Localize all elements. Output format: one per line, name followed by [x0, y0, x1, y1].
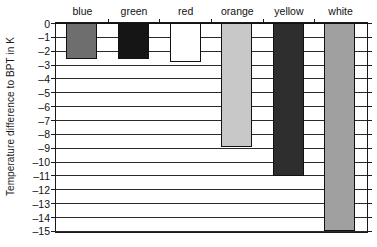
- y-axis-tick-mark-right: [368, 92, 372, 93]
- y-axis-tick-mark-left: [51, 51, 55, 52]
- y-axis-tick-mark-right: [368, 51, 372, 52]
- y-axis-tick-label: –15: [32, 226, 50, 236]
- bar-green: [118, 23, 149, 59]
- gridline: [56, 148, 367, 149]
- y-axis-tick-label: –2: [38, 46, 50, 56]
- gridline: [56, 231, 367, 232]
- y-axis-tick-mark-left: [51, 175, 55, 176]
- category-label-yellow: yellow: [263, 5, 315, 18]
- gridline: [56, 106, 367, 107]
- y-axis-tick-mark-right: [368, 189, 372, 190]
- y-axis-tick-mark-left: [51, 203, 55, 204]
- y-axis-tick-labels: 0–1–2–3–4–5–6–7–8–9–10–11–12–13–14–15: [18, 22, 53, 233]
- y-axis-tick-label: –8: [38, 129, 50, 139]
- y-axis-tick-mark-right: [368, 162, 372, 163]
- y-axis-tick-mark-left: [51, 231, 55, 232]
- x-axis-tick-mark: [159, 19, 160, 23]
- y-axis-tick-mark-left: [51, 78, 55, 79]
- gridline: [56, 189, 367, 190]
- y-axis-tick-label: –4: [38, 74, 50, 84]
- gridline: [56, 217, 367, 218]
- y-axis-tick-mark-right: [368, 65, 372, 66]
- y-axis-tick-label: –7: [38, 116, 50, 126]
- y-axis-tick-mark-right: [368, 148, 372, 149]
- y-axis-tick-label: –14: [32, 213, 50, 223]
- x-axis-tick-mark: [314, 19, 315, 23]
- y-axis-tick-label: –9: [38, 143, 50, 153]
- plot-area: [55, 22, 368, 233]
- gridline: [56, 37, 367, 38]
- y-axis-tick-mark-right: [368, 203, 372, 204]
- gridline: [56, 175, 367, 176]
- gridline: [56, 162, 367, 163]
- y-axis-tick-label: –1: [38, 32, 50, 42]
- category-label-red: red: [160, 5, 212, 18]
- y-axis-tick-mark-right: [368, 231, 372, 232]
- y-axis-tick-label: –6: [38, 102, 50, 112]
- x-axis-tick-mark: [108, 19, 109, 23]
- bar-orange: [221, 23, 252, 147]
- x-axis-tick-mark: [263, 19, 264, 23]
- y-axis-tick-label: –10: [32, 157, 50, 167]
- gridline: [56, 203, 367, 204]
- gridline: [56, 92, 367, 93]
- gridline: [56, 23, 367, 24]
- y-axis-tick-mark-right: [368, 175, 372, 176]
- y-axis-tick-mark-right: [368, 217, 372, 218]
- y-axis-tick-mark-right: [368, 78, 372, 79]
- y-axis-tick-mark-right: [368, 106, 372, 107]
- bar-red: [170, 23, 201, 62]
- category-label-green: green: [108, 5, 160, 18]
- y-axis-tick-mark-left: [51, 148, 55, 149]
- y-axis-tick-mark-left: [51, 120, 55, 121]
- y-axis-tick-mark-left: [51, 162, 55, 163]
- category-label-orange: orange: [212, 5, 264, 18]
- y-axis-tick-label: –5: [38, 88, 50, 98]
- y-axis-tick-label: 0: [44, 19, 50, 29]
- bar-yellow: [273, 23, 304, 176]
- y-axis-tick-mark-left: [51, 134, 55, 135]
- gridline: [56, 120, 367, 121]
- y-axis-tick-mark-right: [368, 37, 372, 38]
- y-axis-tick-mark-left: [51, 217, 55, 218]
- y-axis-title-text: Temperature difference to BPT in K: [6, 36, 17, 195]
- y-axis-tick-mark-left: [51, 92, 55, 93]
- y-axis-tick-label: –11: [33, 171, 50, 181]
- gridline: [56, 134, 367, 135]
- y-axis-tick-mark-right: [368, 120, 372, 121]
- gridline: [56, 78, 367, 79]
- gridline: [56, 51, 367, 52]
- y-axis-tick-mark-left: [51, 23, 55, 24]
- y-axis-tick-label: –13: [32, 199, 50, 209]
- plot-inner: [56, 23, 367, 232]
- y-axis-tick-mark-right: [368, 134, 372, 135]
- y-axis-tick-mark-left: [51, 189, 55, 190]
- bar-blue: [66, 23, 97, 59]
- gridline: [56, 65, 367, 66]
- y-axis-tick-mark-left: [51, 65, 55, 66]
- x-axis-tick-mark: [211, 19, 212, 23]
- y-axis-tick-label: –3: [38, 60, 50, 70]
- bar-white: [324, 23, 355, 231]
- y-axis-tick-mark-left: [51, 106, 55, 107]
- y-axis-tick-mark-right: [368, 23, 372, 24]
- y-axis-tick-mark-left: [51, 37, 55, 38]
- category-label-white: white: [315, 5, 367, 18]
- category-label-blue: blue: [57, 5, 109, 18]
- bar-chart-figure: Temperature difference to BPT in K 0–1–2…: [0, 0, 377, 247]
- y-axis-tick-label: –12: [32, 185, 50, 195]
